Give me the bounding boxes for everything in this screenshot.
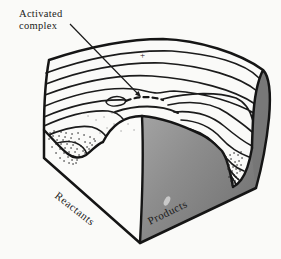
saddle-plus-mark: + — [140, 50, 145, 60]
activated-complex-label: Activated complex — [19, 8, 63, 31]
pes-3d-diagram: + Activated complex Reactants Products — [0, 0, 281, 259]
potential-energy-surface-figure: + Activated complex Reactants Products — [0, 0, 281, 259]
svg-text:Activated: Activated — [19, 8, 63, 19]
svg-text:complex: complex — [19, 20, 58, 31]
